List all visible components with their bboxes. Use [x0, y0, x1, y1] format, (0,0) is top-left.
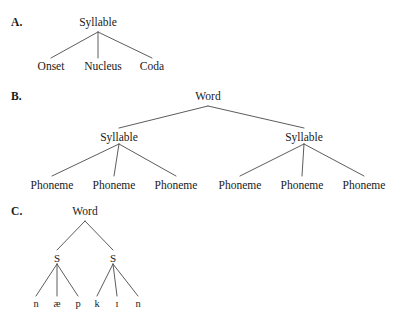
panel-c-phoneme-n-1: n [33, 298, 38, 310]
panel-label-a: A. [11, 16, 23, 28]
panel-b-phoneme-1: Phoneme [31, 179, 74, 192]
panel-b-phoneme-5: Phoneme [281, 179, 324, 192]
panel-b-syllable-left: Syllable [100, 131, 138, 144]
panel-b-phoneme-4: Phoneme [219, 179, 262, 192]
panel-c-phoneme-k: k [94, 298, 99, 310]
panel-b-phoneme-2: Phoneme [93, 179, 136, 192]
panel-c-phoneme-ae: æ [53, 298, 60, 310]
panel-b-phoneme-3: Phoneme [155, 179, 198, 192]
panel-c-phoneme-p: p [75, 298, 80, 310]
panel-a-leaf-nucleus: Nucleus [84, 60, 122, 73]
panel-label-b: B. [11, 90, 22, 102]
panel-a-leaf-coda: Coda [140, 60, 164, 73]
panel-c-phoneme-i: ɪ [116, 298, 119, 310]
panel-b-phoneme-6: Phoneme [343, 179, 386, 192]
panel-c-syllable-left: S [54, 252, 60, 265]
panel-b-root-word: Word [195, 90, 220, 103]
panel-c-syllable-right: S [110, 252, 116, 265]
panel-c-root-word: Word [72, 205, 97, 218]
syllable-structure-diagram: A. Syllable Onset Nucleus Coda B. Word S… [0, 0, 404, 322]
panel-a-root-syllable: Syllable [79, 16, 117, 29]
panel-c-phoneme-n-2: n [135, 298, 140, 310]
panel-a-leaf-onset: Onset [38, 60, 65, 73]
panel-b-syllable-right: Syllable [285, 131, 323, 144]
tree-branch-lines [0, 0, 404, 322]
panel-label-c: C. [11, 205, 23, 217]
